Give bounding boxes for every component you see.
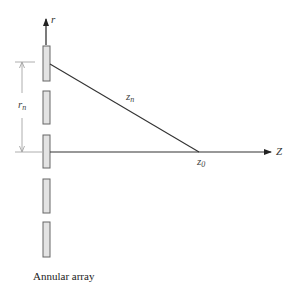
z0-label: z0	[197, 156, 205, 169]
array-element-1	[43, 46, 50, 81]
array-element-4	[43, 179, 50, 213]
rn-label: rn	[18, 99, 26, 112]
array-element-2	[43, 91, 50, 124]
annular-array-diagram	[0, 0, 294, 288]
array-element-3	[43, 135, 50, 168]
zn-path-line	[50, 64, 199, 152]
r-axis-label: r	[51, 14, 55, 25]
zn-label: zn	[126, 91, 134, 104]
z-axis-label: Z	[276, 146, 282, 157]
diagram-caption: Annular array	[33, 270, 94, 282]
array-element-5	[43, 222, 50, 257]
